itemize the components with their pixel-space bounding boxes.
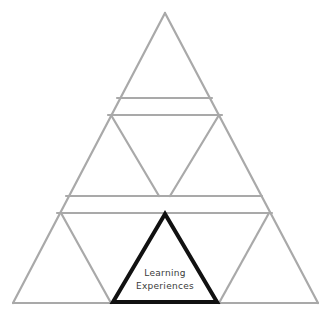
middle-tier-inverted-triangle	[111, 115, 219, 196]
label-learning: Learning	[118, 267, 212, 280]
top-tier-band	[108, 98, 222, 115]
label-experiences: Experiences	[118, 280, 212, 293]
middle-tier-band	[57, 196, 272, 213]
